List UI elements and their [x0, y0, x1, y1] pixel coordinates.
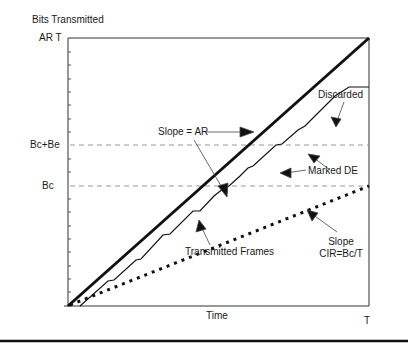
slope-cir-label-line1: Slope — [306, 236, 376, 248]
x-axis-title: Time — [206, 311, 228, 321]
discarded-label: Discarded — [318, 90, 363, 100]
y-tick-bc: Bc — [42, 181, 54, 191]
slope-ar-label: Slope = AR — [158, 127, 208, 137]
y-axis-title: Bits Transmitted — [32, 15, 104, 25]
x-tick-t: T — [364, 316, 370, 326]
transmitted-frames-line — [80, 87, 369, 306]
slope-cir-label-line2: CIR=Bc/T — [306, 248, 376, 260]
slope-cir-label: Slope CIR=Bc/T — [306, 236, 376, 260]
y-tick-ar-t: AR T — [39, 33, 62, 43]
marked-de-label: Marked DE — [308, 166, 358, 176]
y-tick-bc-be: Bc+Be — [30, 140, 60, 150]
transmitted-frames-label: Transmitted Frames — [185, 247, 274, 257]
